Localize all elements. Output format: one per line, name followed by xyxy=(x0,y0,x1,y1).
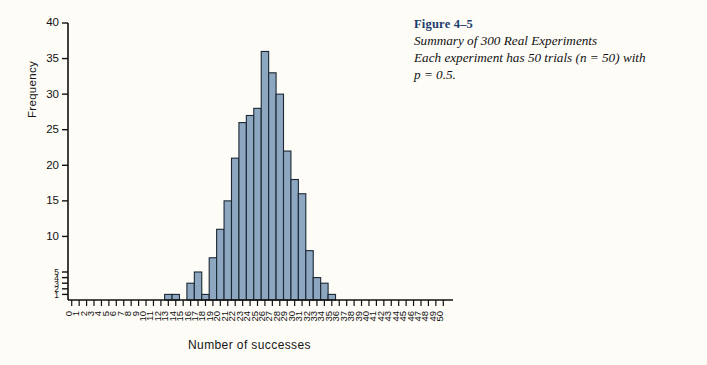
y-axis-title: Frequency xyxy=(26,61,38,118)
y-tick-label: 10 xyxy=(46,230,59,242)
histogram-bar xyxy=(284,151,291,300)
histogram-bar xyxy=(254,108,261,300)
histogram-bar xyxy=(239,123,246,300)
x-tick-labels: 0123456789101112131415161718192021222324… xyxy=(63,311,446,322)
histogram-bar xyxy=(194,272,201,300)
y-tick-label: 35 xyxy=(46,52,59,64)
histogram-bar xyxy=(231,158,238,300)
figure-root: Figure 4–5 Summary of 300 Real Experimen… xyxy=(0,0,707,365)
y-tick-labels: 1234510152025303540 xyxy=(46,16,59,299)
y-tick-label: 30 xyxy=(46,88,59,100)
y-tick-label: 20 xyxy=(46,159,59,171)
histogram-bar xyxy=(187,283,194,300)
y-tick-label: 25 xyxy=(46,123,59,135)
x-tick-label: 50 xyxy=(434,311,445,322)
chart-canvas: 1234510152025303540 01234567891011121314… xyxy=(0,0,707,365)
histogram-bar xyxy=(306,251,313,300)
histogram-bar xyxy=(321,283,328,300)
histogram-bar xyxy=(165,294,172,300)
histogram-bar xyxy=(202,294,209,300)
bars-group xyxy=(165,51,336,300)
histogram-bar xyxy=(246,115,253,300)
histogram-bar xyxy=(209,258,216,300)
x-axis-title: Number of successes xyxy=(188,338,311,352)
histogram-bar xyxy=(172,294,179,300)
histogram-bar xyxy=(328,294,335,300)
histogram-bar xyxy=(276,94,283,300)
y-tick-label: 5 xyxy=(54,267,59,277)
y-tick-label: 15 xyxy=(46,194,59,206)
histogram-bar xyxy=(217,229,224,300)
histogram-bar xyxy=(269,73,276,300)
y-tick-label: 40 xyxy=(46,16,59,28)
histogram-bar xyxy=(298,194,305,300)
histogram-bar xyxy=(291,180,298,300)
histogram-bar xyxy=(261,51,268,300)
histogram-bar xyxy=(224,201,231,300)
histogram-bar xyxy=(313,278,320,300)
histogram-plot: 1234510152025303540 01234567891011121314… xyxy=(0,0,707,365)
